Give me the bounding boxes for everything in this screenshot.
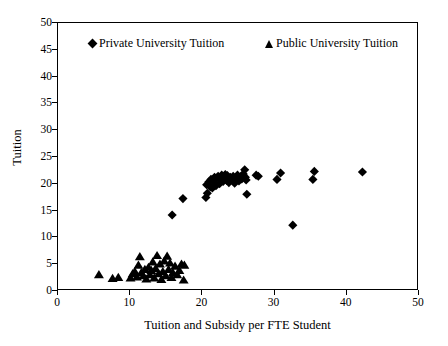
x-tick-label: 40: [326, 296, 366, 308]
x-axis-title: Tuition and Subsidy per FTE Student: [57, 318, 418, 333]
x-tick-label: 30: [254, 296, 294, 308]
data-point-diamond: [178, 194, 187, 203]
x-tick-mark: [201, 290, 202, 295]
y-tick-label: 50: [0, 16, 52, 28]
x-tick-label: 0: [37, 296, 77, 308]
x-tick-label: 20: [181, 296, 221, 308]
y-tick-label: 35: [0, 96, 52, 108]
y-tick-label: 10: [0, 230, 52, 242]
x-tick-label: 10: [109, 296, 149, 308]
y-tick-label: 40: [0, 70, 52, 82]
data-point-triangle: [152, 251, 162, 259]
y-axis-title: Tuition: [10, 108, 25, 188]
scatter-chart: Tuition 05101520253035404550 01020304050…: [0, 0, 448, 346]
data-point-diamond: [358, 167, 367, 176]
data-point-diamond: [310, 167, 319, 176]
y-tick-label: 5: [0, 257, 52, 269]
plot-area: [57, 22, 418, 290]
data-point-diamond: [288, 221, 297, 230]
y-tick-label: 0: [0, 284, 52, 296]
y-tick-label: 25: [0, 150, 52, 162]
x-tick-mark: [57, 290, 58, 295]
y-tick-label: 30: [0, 123, 52, 135]
x-tick-label: 50: [398, 296, 438, 308]
data-point-triangle: [135, 252, 145, 260]
data-point-diamond: [308, 175, 317, 184]
data-point-triangle: [113, 273, 123, 281]
x-tick-mark: [418, 290, 419, 295]
data-point-triangle: [162, 252, 172, 260]
x-tick-mark: [274, 290, 275, 295]
data-point-triangle: [133, 261, 143, 269]
data-point-triangle: [94, 270, 104, 278]
x-tick-mark: [346, 290, 347, 295]
y-tick-label: 45: [0, 43, 52, 55]
y-tick-label: 20: [0, 177, 52, 189]
data-points-layer: [58, 23, 417, 289]
y-tick-label: 15: [0, 204, 52, 216]
data-point-diamond: [242, 190, 251, 199]
series-public: [94, 251, 189, 284]
data-point-diamond: [168, 210, 177, 219]
x-tick-mark: [129, 290, 130, 295]
series-private: [168, 165, 367, 229]
